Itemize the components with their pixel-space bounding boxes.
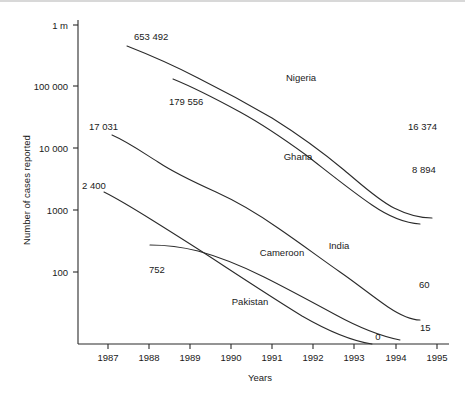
chart-container: 1 m 100 000 10 000 1000 100 1987 1988 19… [0,0,465,398]
y-tick-label-10000: 10 000 [39,143,68,154]
line-chart-svg: 1 m 100 000 10 000 1000 100 1987 1988 19… [0,0,465,398]
series-label-india: India [329,240,350,251]
x-tick-label-1990: 1990 [220,352,241,363]
data-label-pakistan-end: 0 [375,331,380,342]
x-tick-label-1989: 1989 [179,352,200,363]
series-line-nigeria [127,46,432,218]
y-tick-label-1m: 1 m [52,20,68,31]
data-label-cameroon-end: 15 [420,322,431,333]
series-label-ghana: Ghana [284,151,313,162]
data-label-pakistan-start: 2 400 [82,180,106,191]
data-label-cameroon-start: 752 [149,264,165,275]
series-line-india [112,135,420,320]
data-label-ghana-end: 8 894 [412,164,436,175]
data-label-nigeria-start: 653 492 [134,31,168,42]
x-axis-title: Years [248,372,272,383]
series-label-cameroon: Cameroon [260,247,304,258]
data-label-india-start: 17 031 [89,121,118,132]
x-tick-label-1988: 1988 [138,352,159,363]
x-tick-label-1991: 1991 [261,352,282,363]
x-tick-label-1994: 1994 [385,352,406,363]
x-axis-ticks [108,344,437,349]
y-axis-title: Number of cases reported [21,135,32,245]
series-line-pakistan [104,192,372,344]
x-tick-label-1995: 1995 [426,352,447,363]
y-tick-label-100: 100 [52,267,68,278]
data-label-india-end: 60 [419,279,430,290]
y-tick-label-100000: 100 000 [34,81,68,92]
y-axis-ticks [73,25,78,272]
data-label-nigeria-end: 16 374 [408,121,437,132]
x-tick-label-1993: 1993 [343,352,364,363]
data-label-ghana-start: 179 556 [169,96,203,107]
y-tick-label-1000: 1000 [47,205,68,216]
series-label-pakistan: Pakistan [232,296,268,307]
x-tick-label-1987: 1987 [97,352,118,363]
x-tick-label-1992: 1992 [302,352,323,363]
series-line-cameroon [150,245,400,340]
series-label-nigeria: Nigeria [286,72,317,83]
